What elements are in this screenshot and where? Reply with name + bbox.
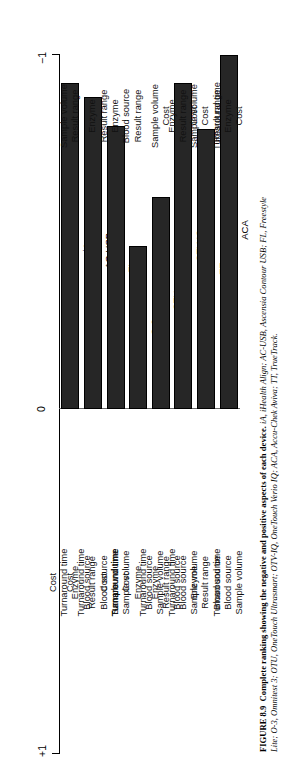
negative-aspects-ia: Sample volumeResult range xyxy=(59,57,81,175)
plot-area: +1 0 −1 iAAC-USBFLO-3OTUOTV-IQTTACA Cost… xyxy=(4,54,240,754)
aspect-item: Sample volume xyxy=(189,57,200,175)
positive-aspects-aca: Turnaround timeBlood sourceSample volume xyxy=(212,417,246,748)
caption-abbrev-2: Lite; O-3, Omnitest 3; OTU, OneTouch Ult… xyxy=(269,333,279,752)
aspect-item: Blood source xyxy=(121,57,132,175)
negative-aspects-ac-usb: Enzyme xyxy=(87,57,98,175)
aspect-item: Blood source xyxy=(178,417,189,748)
aspect-item: Enzyme xyxy=(223,57,234,175)
aspect-item: Result range xyxy=(212,57,223,175)
aspect-item: Turnaround time xyxy=(138,417,149,748)
caption-bold-text: Complete ranking showing the negative an… xyxy=(258,426,268,701)
aspect-item: Result range xyxy=(200,417,211,748)
aspect-item: Cost xyxy=(121,417,132,748)
negative-aspects-o-3: Result range xyxy=(133,57,144,175)
aspect-item: Result range xyxy=(70,57,81,175)
aspect-item: Sample volume xyxy=(150,57,161,175)
negative-aspects-fl: Result rangeEnzymeBlood source xyxy=(99,57,133,175)
aspect-item: Enzyme xyxy=(87,57,98,175)
aspect-item: Cost xyxy=(200,57,211,175)
aspect-item: Result range xyxy=(87,417,98,748)
axis-tick-label-zero: 0 xyxy=(35,406,47,412)
aspect-item: Cost xyxy=(99,417,110,748)
axis-tick-label-plus-one: +1 xyxy=(36,745,48,757)
aspect-item: Cost xyxy=(48,417,59,748)
aspect-item: Turnaround time xyxy=(110,417,121,748)
bar-otu xyxy=(152,197,170,409)
figure-canvas: +1 0 −1 iAAC-USBFLO-3OTUOTV-IQTTACA Cost… xyxy=(0,0,304,772)
axis-tick-label-minus-one: −1 xyxy=(36,52,48,64)
aspect-item: Blood source xyxy=(223,417,234,748)
aspect-item: Turnaround time xyxy=(76,417,87,748)
aspect-item: Result range xyxy=(99,57,110,175)
aspect-item: Sample volume xyxy=(59,57,70,175)
aspect-item: Result range xyxy=(178,57,189,175)
bar-o-3 xyxy=(129,246,147,409)
aspect-item: Result range xyxy=(133,57,144,175)
aspect-item: Turnaround time xyxy=(167,417,178,748)
figure-number: FIGURE 8.9 xyxy=(258,706,268,752)
aspect-item: Enzyme xyxy=(167,57,178,175)
figure-page: +1 0 −1 iAAC-USBFLO-3OTUOTV-IQTTACA Cost… xyxy=(0,0,304,772)
caption-line-2: Lite; O-3, Omnitest 3; OTU, OneTouch Ult… xyxy=(269,18,280,752)
caption-line-1: FIGURE 8.9 Complete ranking showing the … xyxy=(258,18,269,752)
bar-label-aca: ACA xyxy=(239,220,250,240)
caption-abbrev-1: iA, iHealth Align; AC-USB, Ascensia Cont… xyxy=(258,197,268,426)
aspect-item: Sample volume xyxy=(234,417,245,748)
aspect-item: Cost xyxy=(234,57,245,175)
aspect-item: Enzyme xyxy=(110,57,121,175)
axis-end-cap-right xyxy=(52,54,60,55)
negative-aspects-aca: Result rangeEnzymeCost xyxy=(212,57,246,175)
axis-end-cap-left xyxy=(52,753,60,754)
aspect-item: Turnaround time xyxy=(212,417,223,748)
figure-caption: FIGURE 8.9 Complete ranking showing the … xyxy=(258,18,279,752)
aspect-item: Cost xyxy=(65,417,76,748)
aspect-item: Enzyme xyxy=(150,417,161,748)
aspect-item: Enzyme xyxy=(189,417,200,748)
